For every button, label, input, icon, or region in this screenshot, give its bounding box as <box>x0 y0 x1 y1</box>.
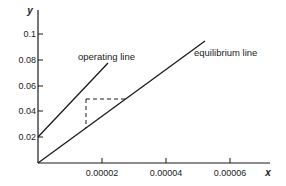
operating-line-label: operating line <box>78 51 135 62</box>
y-axis-label: y <box>26 5 33 16</box>
y-tick-label: 0.1 <box>23 29 36 39</box>
x-tick-label: 0.00004 <box>150 168 183 178</box>
y-tick-label: 0.06 <box>18 81 36 91</box>
y-tick-label: 0.04 <box>18 106 36 116</box>
y-tick-label: 0.02 <box>18 132 36 142</box>
x-axis-label: x <box>264 167 271 178</box>
x-tick-label: 0.00002 <box>86 168 119 178</box>
equilibrium-line-label: equilibrium line <box>194 47 257 58</box>
chart: 0.02 0.04 0.06 0.08 0.1 y 0.00002 0.0000… <box>0 0 286 186</box>
x-ticks <box>102 158 230 163</box>
operating-line <box>38 63 108 137</box>
y-tick-label: 0.08 <box>18 55 36 65</box>
y-ticks <box>38 34 43 137</box>
x-tick-label: 0.00006 <box>214 168 247 178</box>
